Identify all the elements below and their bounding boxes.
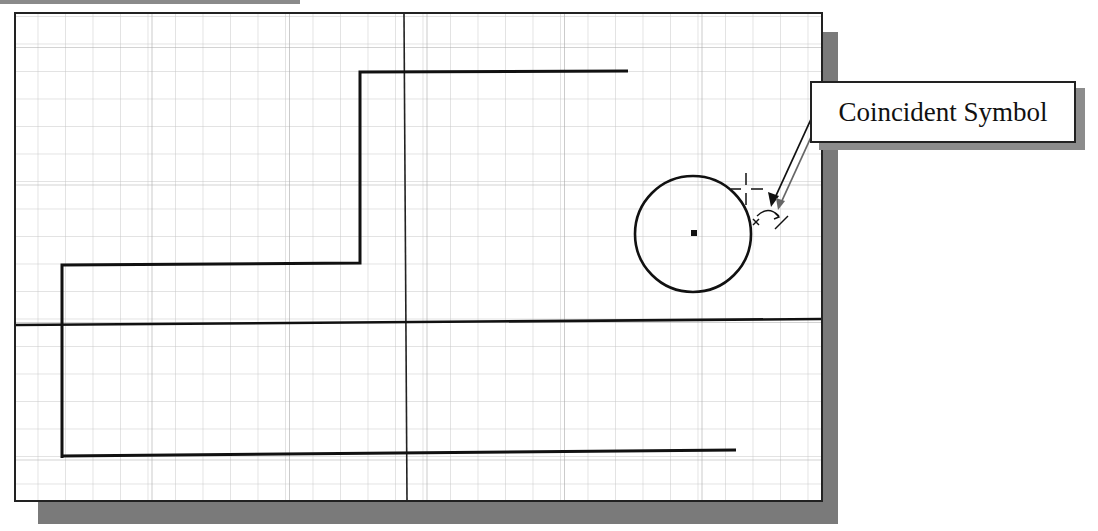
coincident-symbol-callout: Coincident Symbol bbox=[810, 81, 1076, 143]
grid bbox=[16, 14, 821, 500]
callout-label: Coincident Symbol bbox=[838, 97, 1047, 128]
circle-center-point[interactable] bbox=[691, 230, 697, 236]
sketch-drawing bbox=[0, 0, 1098, 531]
